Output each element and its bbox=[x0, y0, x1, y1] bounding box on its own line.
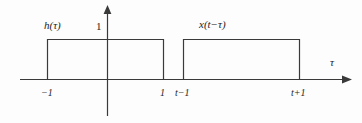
amplitude-axis-arrowhead bbox=[104, 5, 112, 14]
tick-label-minus-one: −1 bbox=[41, 88, 53, 98]
pulse-h-tau bbox=[48, 40, 164, 80]
tau-axis-arrowhead bbox=[342, 76, 352, 84]
signal-label-x-t-minus-tau: x(t−τ) bbox=[199, 19, 226, 30]
tick-label-one: 1 bbox=[160, 88, 165, 98]
convolution-figure: h(τ) 1 x(t−τ) τ −1 1 t−1 t+1 bbox=[0, 0, 362, 123]
signal-label-h-tau: h(τ) bbox=[44, 20, 61, 31]
tick-label-t-plus-one: t+1 bbox=[291, 88, 306, 98]
pulse-x-t-minus-tau bbox=[184, 40, 300, 80]
tick-label-t-minus-one: t−1 bbox=[175, 88, 190, 98]
amplitude-label-one: 1 bbox=[96, 21, 102, 32]
axis-label-tau: τ bbox=[330, 57, 334, 68]
tau-axis bbox=[20, 76, 352, 84]
amplitude-axis bbox=[104, 5, 112, 116]
